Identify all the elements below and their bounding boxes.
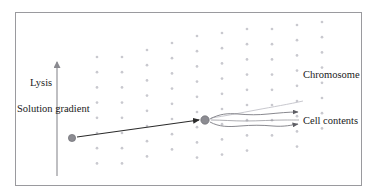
grid-dot	[96, 101, 99, 104]
grid-dot	[171, 42, 174, 45]
grid-dot	[271, 73, 274, 76]
grid-dot	[271, 43, 274, 46]
chromosome-strand	[211, 101, 303, 118]
grid-dot	[321, 127, 324, 130]
label-chromosome: Chromosome	[303, 69, 360, 81]
grid-dot	[146, 109, 149, 112]
label-cell-contents: Cell contents	[303, 115, 358, 127]
grid-dot	[246, 58, 249, 61]
grid-dot	[221, 32, 224, 35]
grid-dot	[171, 87, 174, 90]
grid-dot	[321, 81, 324, 84]
grid-dot	[121, 132, 124, 135]
grid-dot	[96, 86, 99, 89]
grid-dot	[146, 140, 149, 143]
grid-dot	[296, 115, 299, 118]
grid-dot	[246, 28, 249, 31]
grid-dot	[271, 28, 274, 31]
grid-dot	[171, 72, 174, 75]
grid-dot	[121, 71, 124, 74]
grid-dot	[246, 73, 249, 76]
grid-dot	[221, 123, 224, 126]
grid-dot	[271, 134, 274, 137]
grid-dot	[296, 39, 299, 42]
figure-drawing	[0, 0, 377, 196]
cell-contents-upper-strand	[210, 112, 298, 119]
grid-dot	[121, 101, 124, 104]
grid-dot	[146, 155, 149, 158]
grid-dot	[196, 65, 199, 68]
grid-dot	[196, 95, 199, 98]
grid-dot	[196, 126, 199, 129]
grid-dot	[171, 118, 174, 121]
grid-dot	[171, 102, 174, 105]
label-solution-gradient: Solution gradient	[17, 103, 90, 115]
cell-start-marker	[68, 134, 75, 141]
cell-lysing-marker	[201, 116, 209, 124]
grid-dot	[321, 21, 324, 24]
cell-contents-mid-strand	[211, 120, 299, 121]
grid-dot	[221, 153, 224, 156]
grid-dot	[246, 88, 249, 91]
grid-dot	[221, 47, 224, 50]
grid-dot	[246, 149, 249, 152]
label-lysis: Lysis	[30, 77, 52, 89]
grid-dot	[196, 50, 199, 53]
grid-dot	[196, 35, 199, 38]
grid-dot	[221, 138, 224, 141]
grid-dot	[171, 148, 174, 151]
grid-dot	[171, 57, 174, 60]
grid-dot	[196, 80, 199, 83]
grid-dot	[121, 56, 124, 59]
grid-dot	[96, 162, 99, 165]
grid-dot	[221, 62, 224, 65]
grid-dot	[246, 43, 249, 46]
grid-dot	[296, 130, 299, 133]
grid-dot	[146, 64, 149, 67]
grid-dot	[321, 97, 324, 100]
grid-dot	[146, 79, 149, 82]
grid-dot	[321, 51, 324, 54]
grid-dot	[221, 108, 224, 111]
grid-dot	[121, 162, 124, 165]
grid-dot	[321, 36, 324, 39]
grid-dot	[196, 111, 199, 114]
grid-dot	[271, 58, 274, 61]
grid-dot	[196, 141, 199, 144]
grid-dot	[271, 88, 274, 91]
grid-dot	[146, 94, 149, 97]
grid-dot	[271, 104, 274, 107]
dot-grid	[96, 21, 324, 165]
grid-dot	[196, 156, 199, 159]
grid-dot	[246, 104, 249, 107]
grid-dot	[146, 49, 149, 52]
cell-migration-arrow	[77, 120, 199, 137]
grid-dot	[171, 133, 174, 136]
grid-dot	[296, 69, 299, 72]
grid-dot	[296, 145, 299, 148]
grid-dot	[121, 116, 124, 119]
grid-dot	[296, 24, 299, 27]
grid-dot	[96, 116, 99, 119]
grid-dot	[96, 71, 99, 74]
grid-dot	[121, 147, 124, 150]
grid-dot	[296, 54, 299, 57]
grid-dot	[221, 77, 224, 80]
grid-dot	[96, 56, 99, 59]
grid-dot	[121, 86, 124, 89]
figure-container: Lysis Solution gradient Chromosome Cell …	[0, 0, 377, 196]
grid-dot	[246, 134, 249, 137]
grid-dot	[96, 147, 99, 150]
grid-dot	[221, 92, 224, 95]
grid-dot	[296, 84, 299, 87]
